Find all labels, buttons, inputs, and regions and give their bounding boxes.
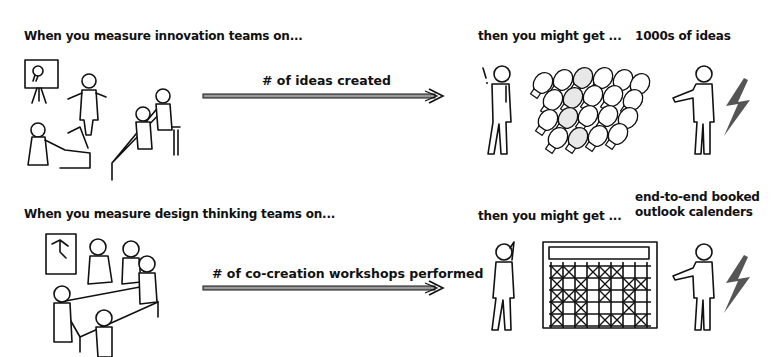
presenting-person-icon-2 <box>670 240 720 335</box>
row2-result-intro: then you might get ... <box>478 209 622 223</box>
row1-arrow-icon <box>203 88 448 104</box>
row1-metric-label: # of ideas created <box>262 73 391 88</box>
row2-metric-label: # of co-creation workshops performed <box>212 266 483 281</box>
row2-result-line1: end-to-end booked <box>635 190 760 205</box>
lightbulb-pile-icon <box>528 68 668 158</box>
booked-calendar-icon <box>541 240 659 330</box>
row1-result-text: 1000s of ideas <box>635 29 731 43</box>
row2-arrow-icon <box>203 280 448 296</box>
lightning-icon-2 <box>722 255 752 315</box>
lightning-icon <box>722 78 752 138</box>
surprised-person-icon <box>480 62 520 162</box>
presenting-person-icon <box>670 62 720 162</box>
row1-lead-text: When you measure innovation teams on... <box>24 29 303 43</box>
design-workshop-illustration <box>40 232 170 357</box>
row1-result-intro: then you might get ... <box>478 29 622 43</box>
row2-lead-text: When you measure design thinking teams o… <box>24 207 335 221</box>
row2-result-line2: outlook calenders <box>635 205 760 220</box>
team-meeting-illustration <box>20 55 180 175</box>
row2-result-text: end-to-end booked outlook calenders <box>635 190 760 220</box>
confused-person-icon <box>484 240 524 335</box>
